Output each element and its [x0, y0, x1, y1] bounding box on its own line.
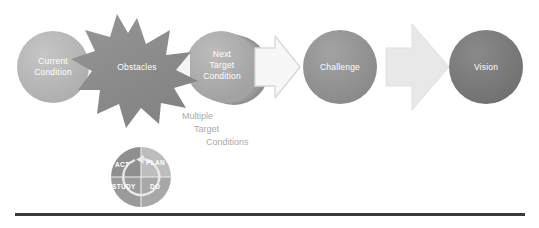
obstacles-label: Obstacles	[99, 62, 175, 73]
current-condition-label: Current Condition	[18, 56, 88, 78]
obstacle-notch-right-icon	[159, 54, 190, 80]
next-target-condition-shape	[186, 31, 269, 105]
next-target-condition-label: Next Target Condition	[186, 49, 258, 82]
annotation-line-1: Multiple	[182, 110, 249, 123]
diagram-shapes-layer	[0, 0, 539, 228]
arrow-to-challenge-icon	[255, 36, 300, 98]
pdsa-label-act: ACT	[115, 161, 129, 168]
vision-shape	[449, 30, 523, 104]
vision-label: Vision	[451, 62, 521, 73]
challenge-shape	[303, 30, 377, 104]
arrow-to-vision-icon	[386, 24, 449, 110]
challenge-label: Challenge	[305, 62, 375, 73]
annotation-line-2: Target	[194, 123, 249, 136]
baseline-divider	[15, 213, 525, 216]
current-condition-shape	[17, 31, 89, 103]
multiple-target-conditions-annotation: Multiple Target Conditions	[182, 110, 249, 149]
pdsa-cycle-shape	[111, 147, 171, 207]
obstacle-notch-left-icon	[63, 54, 96, 80]
obstacles-shape	[71, 14, 198, 128]
pdsa-label-plan: PLAN	[146, 159, 165, 166]
pdsa-label-do: DO	[150, 183, 160, 190]
diagram-canvas: Current Condition Obstacles Next Target …	[0, 0, 539, 228]
pdsa-label-study: STUDY	[112, 183, 136, 190]
annotation-line-3: Conditions	[206, 136, 249, 149]
